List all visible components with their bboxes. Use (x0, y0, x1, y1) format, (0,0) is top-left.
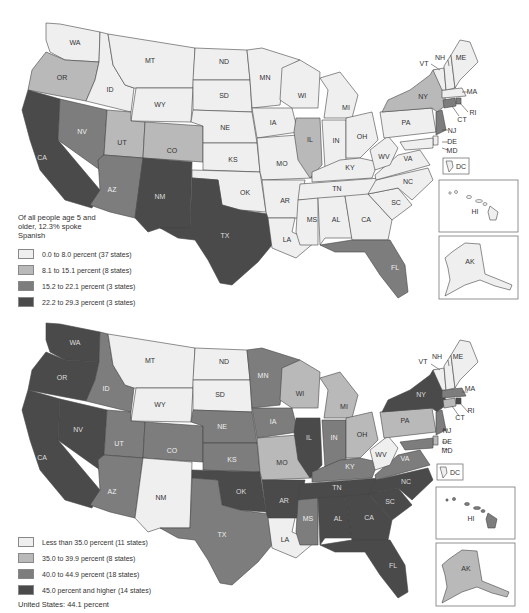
label-id: ID (103, 385, 110, 392)
state-ct (443, 98, 456, 108)
label-wa: WA (69, 39, 80, 46)
label-ia: IA (270, 418, 277, 425)
label-mn: MN (260, 74, 271, 81)
legend-item: 8.1 to 15.1 percent (8 states) (18, 263, 135, 277)
hi-inset-box (436, 487, 515, 539)
label-wv: WV (375, 451, 387, 458)
label-ok: OK (236, 488, 246, 495)
label-ct: CT (457, 116, 467, 123)
label-nv: NV (77, 128, 87, 135)
label-wy: WY (154, 101, 166, 108)
state-nj (436, 110, 446, 135)
label-mo: MO (276, 459, 288, 466)
hi-inset-box (439, 180, 518, 232)
label-nd: ND (219, 358, 229, 365)
state-dc (446, 161, 453, 172)
legend-item: Less than 35.0 percent (11 states) (18, 535, 151, 549)
label-ne: NE (220, 124, 230, 131)
label-in: IN (331, 434, 338, 441)
state-ct (443, 398, 456, 408)
label-va: VA (404, 155, 413, 162)
state-me (451, 40, 478, 88)
label-ms: MS (303, 515, 314, 522)
label-nc: NC (401, 478, 411, 485)
spanish-speakers-map: WA OR CA ID NV MT WY UT CO AZ NM ND SD N… (0, 0, 529, 300)
label-or: OR (57, 74, 68, 81)
state-md (400, 138, 433, 150)
legend-swatch (18, 265, 34, 275)
label-oh: OH (357, 133, 368, 140)
legend-label: Less than 35.0 percent (11 states) (42, 539, 148, 546)
state-mi (320, 72, 358, 118)
legend-item: 35.0 to 39.9 percent (8 states) (18, 551, 151, 565)
label-hi: HI (468, 515, 475, 522)
legend-swatch (18, 281, 34, 291)
label-nh: NH (435, 54, 445, 61)
label-md: MD (442, 447, 453, 454)
legend-item: 0.0 to 8.0 percent (37 states) (18, 247, 135, 261)
legend-item: 45.0 percent and higher (14 states) (18, 583, 151, 597)
label-de: DE (447, 138, 457, 145)
legend-item: 40.0 to 44.9 percent (18 states) (18, 567, 151, 581)
label-mn: MN (258, 372, 269, 379)
label-mt: MT (145, 357, 156, 364)
label-ct: CT (455, 414, 465, 421)
label-tx: TX (218, 531, 227, 538)
label-ga: CA (361, 216, 371, 223)
label-la: LA (281, 536, 290, 543)
label-mi: MI (342, 104, 350, 111)
us-total-note: United States: 44.1 percent (18, 600, 151, 609)
label-sc: SC (385, 498, 395, 505)
state-wi (280, 60, 320, 108)
legend-label: 40.0 to 44.9 percent (18 states) (42, 571, 139, 578)
label-ok: OK (240, 189, 250, 196)
label-ar: AR (279, 497, 289, 504)
label-oh: OH (357, 431, 368, 438)
legend-label: 45.0 percent and higher (14 states) (42, 587, 151, 594)
label-mo: MO (276, 160, 288, 167)
state-de (433, 136, 438, 145)
label-ca: CA (37, 454, 47, 461)
label-mi: MI (340, 403, 348, 410)
label-al: AL (334, 515, 343, 522)
label-ny: NY (418, 93, 428, 100)
label-ak: AK (465, 258, 475, 265)
label-fl: FL (391, 264, 399, 271)
label-wi: WI (298, 92, 307, 99)
legend-label: 15.2 to 22.1 percent (3 states) (42, 283, 135, 290)
label-dc: DC (456, 163, 466, 170)
state-co (143, 122, 203, 162)
legend-label: 0.0 to 8.0 percent (37 states) (42, 251, 132, 258)
label-ms: MS (307, 216, 318, 223)
label-wa: WA (69, 339, 80, 346)
label-az: AZ (108, 488, 118, 495)
state-md (400, 438, 433, 450)
label-nj: NJ (443, 427, 452, 434)
legend-swatch (18, 537, 34, 547)
label-sc: SC (391, 199, 401, 206)
label-or: OR (57, 374, 68, 381)
state-ak (445, 243, 512, 296)
label-ky: KY (345, 463, 355, 470)
label-nd: ND (219, 58, 229, 65)
label-va: VA (401, 455, 410, 462)
label-nc: NC (403, 178, 413, 185)
state-hi (446, 497, 497, 528)
label-vt: VT (420, 60, 430, 67)
label-ga: CA (364, 514, 374, 521)
label-co: CO (167, 147, 178, 154)
label-wv: WV (378, 153, 390, 160)
label-ar: AR (280, 197, 290, 204)
legend-swatch (18, 249, 34, 259)
label-hi: HI (472, 208, 479, 215)
label-co: CO (167, 447, 178, 454)
legend-swatch (18, 569, 34, 579)
label-fl: FL (389, 562, 397, 569)
label-nv: NV (73, 426, 83, 433)
label-md: MD (447, 147, 458, 154)
label-nj: NJ (448, 127, 457, 134)
label-in: IN (333, 137, 340, 144)
state-mi (320, 372, 358, 418)
label-nh: NH (432, 353, 442, 360)
label-ny: NY (416, 391, 426, 398)
